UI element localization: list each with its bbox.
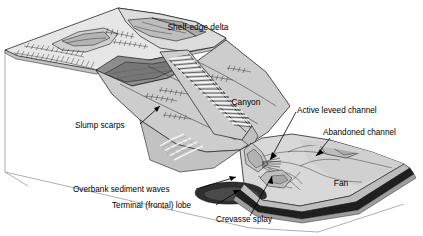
label-terminal-frontal-lobe: Terminal (frontal) lobe [112,201,192,210]
label-canyon: Canyon [232,97,261,107]
label-abandoned-channel: Abandoned channel [323,128,396,137]
label-active-leveed-channel: Active leveed channel [297,106,377,115]
label-overbank-sediment-waves: Overbank sediment waves [73,185,169,194]
block-diagram-figure: Shelf-edge delta Canyon Fan Slump scarps… [0,0,423,236]
label-slump-scarps: Slump scarps [75,121,125,130]
label-shelf-edge-delta: Shelf-edge delta [168,22,229,32]
label-crevasse-splay: Crevasse splay [216,215,273,224]
diagram-canvas: Shelf-edge delta Canyon Fan Slump scarps… [0,0,423,236]
label-fan: Fan [334,178,349,188]
